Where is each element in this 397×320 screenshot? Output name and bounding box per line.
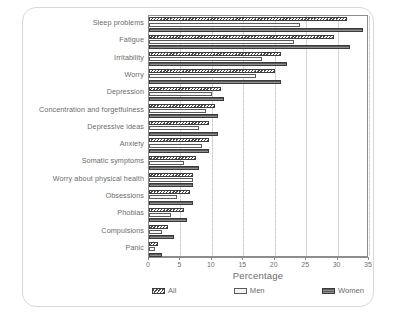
bar-all xyxy=(149,156,196,160)
bar-men xyxy=(149,161,184,165)
chart-legend: All Men Women xyxy=(148,286,368,295)
x-tick-label: 5 xyxy=(177,261,181,268)
gridline xyxy=(369,16,370,256)
bar-men xyxy=(149,126,199,130)
category-label: Irritability xyxy=(114,54,144,62)
bar-group xyxy=(149,172,367,189)
bar-men xyxy=(149,213,171,217)
bar-women xyxy=(149,114,218,118)
bar-all xyxy=(149,35,334,39)
bar-all xyxy=(149,52,281,56)
bar-all xyxy=(149,225,168,229)
bar-all xyxy=(149,190,190,194)
legend-item-men: Men xyxy=(234,286,265,295)
bar-women xyxy=(149,166,199,170)
category-label: Concentration and forgetfulness xyxy=(39,106,144,114)
bar-all xyxy=(149,69,275,73)
plot-area xyxy=(148,15,368,257)
bar-all xyxy=(149,138,209,142)
category-label: Panic xyxy=(126,244,144,252)
bar-group xyxy=(149,223,367,240)
legend-label-women: Women xyxy=(338,286,364,295)
category-axis-labels: Sleep problemsFatigueIrritabilityWorryDe… xyxy=(0,15,144,257)
category-label: Sleep problems xyxy=(93,19,144,27)
bar-men xyxy=(149,40,294,44)
legend-swatch-men-icon xyxy=(234,288,247,294)
x-tick-mark xyxy=(368,257,369,260)
category-label: Compulsions xyxy=(101,227,144,235)
category-label: Obsessions xyxy=(105,192,144,200)
bar-men xyxy=(149,109,206,113)
bar-all xyxy=(149,242,158,246)
x-tick-label: 15 xyxy=(238,261,246,268)
bar-women xyxy=(149,183,193,187)
bar-women xyxy=(149,28,363,32)
bar-men xyxy=(149,195,177,199)
x-tick-label: 35 xyxy=(364,261,372,268)
bar-all xyxy=(149,121,209,125)
bar-men xyxy=(149,57,262,61)
bar-men xyxy=(149,247,155,251)
bar-women xyxy=(149,253,162,257)
category-label: Somatic symptoms xyxy=(82,157,144,165)
x-tick-mark xyxy=(148,257,149,260)
legend-swatch-women-icon xyxy=(322,288,335,294)
bar-group xyxy=(149,68,367,85)
x-tick-mark xyxy=(179,257,180,260)
x-tick-label: 30 xyxy=(333,261,341,268)
bar-group xyxy=(149,51,367,68)
legend-item-all: All xyxy=(152,286,176,295)
x-axis: 05101520253035 xyxy=(148,257,368,258)
bar-women xyxy=(149,132,218,136)
bar-men xyxy=(149,178,193,182)
x-axis-title: Percentage xyxy=(148,270,368,281)
bar-women xyxy=(149,45,350,49)
bar-women xyxy=(149,80,281,84)
bar-all xyxy=(149,173,193,177)
bar-men xyxy=(149,23,300,27)
bar-all xyxy=(149,17,347,21)
legend-item-women: Women xyxy=(322,286,364,295)
bar-women xyxy=(149,97,224,101)
category-label: Worry about physical health xyxy=(53,175,144,183)
bar-group xyxy=(149,120,367,137)
bar-women xyxy=(149,201,193,205)
bar-group xyxy=(149,154,367,171)
bar-group xyxy=(149,85,367,102)
x-tick-label: 10 xyxy=(207,261,215,268)
category-label: Fatigue xyxy=(119,36,144,44)
bar-all xyxy=(149,208,184,212)
legend-swatch-all-icon xyxy=(152,288,165,294)
bar-group xyxy=(149,206,367,223)
bar-all xyxy=(149,87,221,91)
x-tick-mark xyxy=(337,257,338,260)
category-label: Worry xyxy=(124,71,144,79)
chart-figure: Sleep problemsFatigueIrritabilityWorryDe… xyxy=(0,0,397,320)
bar-men xyxy=(149,92,212,96)
bar-women xyxy=(149,218,187,222)
bar-group xyxy=(149,137,367,154)
category-label: Phobias xyxy=(117,209,144,217)
x-tick-label: 20 xyxy=(270,261,278,268)
bar-women xyxy=(149,62,287,66)
x-tick-mark xyxy=(211,257,212,260)
x-tick-mark xyxy=(242,257,243,260)
category-label: Depression xyxy=(107,88,144,96)
x-tick-mark xyxy=(274,257,275,260)
legend-label-all: All xyxy=(168,286,176,295)
category-label: Depressive ideas xyxy=(87,123,144,131)
bar-all xyxy=(149,104,215,108)
x-tick-label: 0 xyxy=(146,261,150,268)
x-tick-mark xyxy=(305,257,306,260)
bar-women xyxy=(149,149,209,153)
bar-men xyxy=(149,230,162,234)
bar-men xyxy=(149,144,202,148)
bar-rows xyxy=(149,16,367,256)
bar-group xyxy=(149,33,367,50)
x-tick-label: 25 xyxy=(301,261,309,268)
bar-group xyxy=(149,102,367,119)
bar-group xyxy=(149,16,367,33)
category-label: Anxiety xyxy=(120,140,144,148)
legend-label-men: Men xyxy=(250,286,265,295)
bar-group xyxy=(149,241,367,258)
